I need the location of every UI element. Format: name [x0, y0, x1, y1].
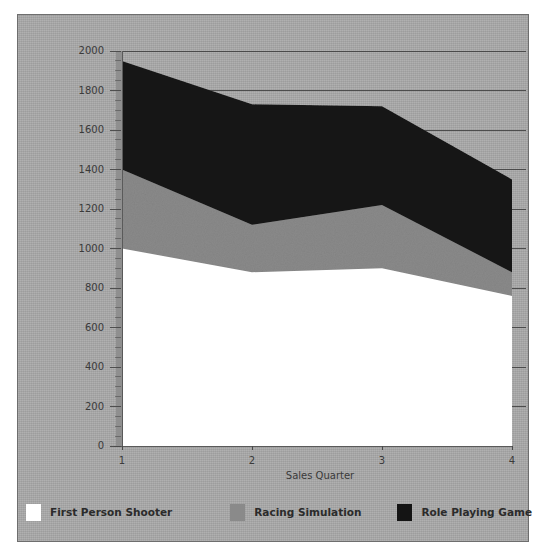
y-tick-label: 1800: [60, 85, 104, 96]
legend-swatch-icon: [397, 504, 412, 521]
chart-legend: First Person ShooterRacing SimulationRol…: [26, 500, 521, 524]
x-tick-label: 2: [240, 455, 264, 466]
legend-item-label: First Person Shooter: [50, 506, 172, 518]
legend-item[interactable]: Racing Simulation: [230, 504, 361, 521]
y-tick-label: 1600: [60, 124, 104, 135]
chart-root: 0200400600800100012001400160018002000 12…: [0, 0, 547, 557]
legend-item[interactable]: Role Playing Game: [397, 504, 532, 521]
y-tick-label: 200: [60, 401, 104, 412]
y-tick-label: 800: [60, 282, 104, 293]
y-tick-label: 0: [60, 440, 104, 451]
x-tick-label: 4: [500, 455, 524, 466]
y-tick-label: 1200: [60, 203, 104, 214]
legend-item[interactable]: First Person Shooter: [26, 504, 172, 521]
x-tick-label: 3: [370, 455, 394, 466]
x-tick-label: 1: [110, 455, 134, 466]
y-tick-label: 400: [60, 361, 104, 372]
legend-swatch-icon: [230, 504, 245, 521]
y-tick-label: 1400: [60, 164, 104, 175]
legend-swatch-icon: [26, 504, 41, 521]
y-tick-label: 1000: [60, 243, 104, 254]
y-tick-label: 600: [60, 322, 104, 333]
legend-item-label: Role Playing Game: [421, 506, 532, 518]
x-axis-title: Sales Quarter: [120, 470, 520, 481]
legend-item-label: Racing Simulation: [254, 506, 361, 518]
y-tick-label: 2000: [60, 45, 104, 56]
